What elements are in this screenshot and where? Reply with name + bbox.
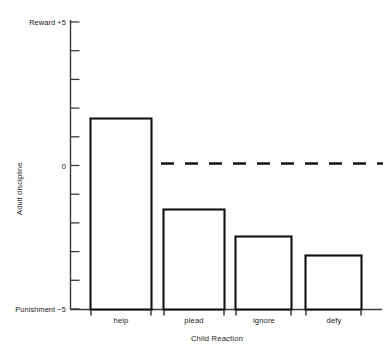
y-axis-ticks [71, 22, 80, 309]
y-axis-title: Adult discipline [15, 163, 24, 216]
bar-chart-figure: Reward +5 0 Punishment −5 Adult discipli… [0, 0, 387, 351]
x-label-help: help [114, 316, 129, 325]
x-label-defy: defy [327, 316, 342, 325]
chart-container: Reward +5 0 Punishment −5 Adult discipli… [0, 0, 387, 351]
bar-defy [306, 256, 362, 310]
y-axis-top-label: Reward +5 [29, 18, 66, 27]
bar-plead [164, 210, 225, 310]
bar-ignore [236, 237, 292, 310]
x-axis-title: Child Reaction [191, 334, 243, 343]
y-axis-bottom-label: Punishment −5 [15, 305, 66, 314]
x-label-ignore: ignore [253, 316, 275, 325]
x-label-plead: plead [184, 316, 203, 325]
bar-help [91, 119, 152, 310]
y-axis-zero-label: 0 [62, 162, 66, 171]
